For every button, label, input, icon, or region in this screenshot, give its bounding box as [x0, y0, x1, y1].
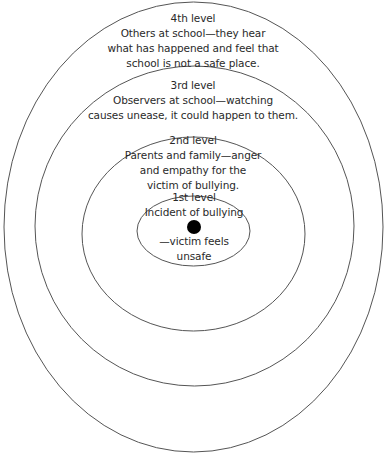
level-1-sublabel: —victim feels unsafe [143, 234, 245, 264]
level-1-line: Incident of bullying [143, 205, 245, 220]
level-3-title: 3rd level [73, 78, 313, 93]
level-3-label: 3rd level Observers at school—watching c… [73, 78, 313, 123]
incident-dot [187, 220, 201, 234]
level-1-line: unsafe [143, 249, 245, 264]
level-4-label: 4th level Others at school—they hear wha… [93, 11, 293, 71]
level-2-title: 2nd level [113, 133, 273, 148]
level-2-label: 2nd level Parents and family—anger and e… [113, 133, 273, 193]
level-2-line: Parents and family—anger [113, 148, 273, 163]
level-1-label: 1st level Incident of bullying [143, 190, 245, 220]
level-1-title: 1st level [143, 190, 245, 205]
level-3-line: Observers at school—watching [73, 93, 313, 108]
level-1-line: —victim feels [143, 234, 245, 249]
level-4-title: 4th level [93, 11, 293, 26]
level-3-line: causes unease, it could happen to them. [73, 108, 313, 123]
level-4-line: school is not a safe place. [93, 56, 293, 71]
level-2-line: and empathy for the [113, 163, 273, 178]
level-4-line: what has happened and feel that [93, 41, 293, 56]
level-4-line: Others at school—they hear [93, 26, 293, 41]
